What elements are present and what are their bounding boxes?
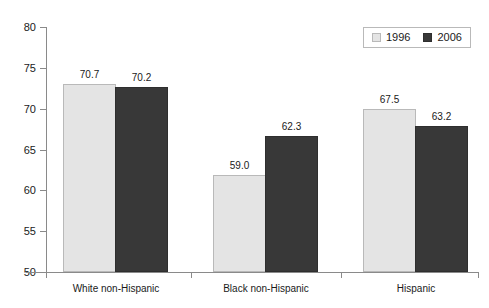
x-tick-mark — [341, 272, 342, 278]
legend-item-2006[interactable]: 2006 — [423, 32, 461, 43]
x-category-label-hispanic: Hispanic — [397, 284, 435, 294]
x-tick-mark — [191, 272, 192, 278]
bar-2006-white-non-hispanic — [115, 87, 168, 272]
bar-value-label: 63.2 — [432, 112, 451, 122]
bar-2006-black-non-hispanic — [265, 136, 318, 273]
y-tick-label: 65 — [2, 144, 36, 155]
bar-2006-hispanic — [415, 126, 468, 272]
x-axis-line — [26, 272, 478, 273]
bar-value-label: 62.3 — [282, 122, 301, 132]
legend-swatch-icon — [423, 33, 432, 42]
legend-item-1996[interactable]: 1996 — [372, 32, 410, 43]
y-tick-label: 60 — [2, 185, 36, 196]
x-tick-mark — [478, 272, 479, 278]
bar-chart: 80 75 70 65 60 55 50 70.7 70.2 59.0 62.3… — [0, 0, 489, 308]
x-category-label-white-non-hispanic: White non-Hispanic — [73, 284, 160, 294]
plot-area: 70.7 70.2 59.0 62.3 67.5 63.2 — [46, 27, 478, 272]
bar-value-label: 70.7 — [80, 70, 99, 80]
y-tick-label: 70 — [2, 103, 36, 114]
legend: 1996 2006 — [363, 27, 471, 48]
x-category-label-black-non-hispanic: Black non-Hispanic — [223, 284, 309, 294]
bar-1996-white-non-hispanic — [63, 84, 116, 272]
y-axis: 80 75 70 65 60 55 50 — [0, 0, 36, 308]
bar-1996-hispanic — [363, 109, 416, 272]
bar-value-label: 59.0 — [230, 161, 249, 171]
y-tick-label: 55 — [2, 226, 36, 237]
legend-label: 1996 — [386, 32, 410, 43]
bar-value-label: 67.5 — [380, 95, 399, 105]
y-tick-label: 75 — [2, 62, 36, 73]
legend-swatch-icon — [372, 33, 381, 42]
x-tick-mark — [46, 272, 47, 278]
bar-value-label: 70.2 — [132, 73, 151, 83]
legend-label: 2006 — [437, 32, 461, 43]
y-tick-label: 80 — [2, 22, 36, 33]
bar-1996-black-non-hispanic — [213, 175, 266, 272]
